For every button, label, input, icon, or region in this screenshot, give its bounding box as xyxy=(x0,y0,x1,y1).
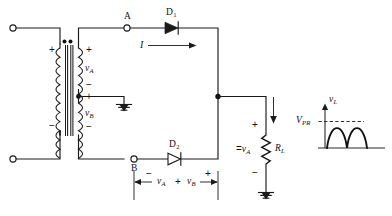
waveform-y-axis-arrowhead xyxy=(322,104,328,111)
node-b-terminal[interactable] xyxy=(131,156,137,162)
transformer-dot-secondary xyxy=(69,40,73,44)
wire-output-to-load xyxy=(218,97,266,136)
diode-d2-label: D2 xyxy=(169,140,179,150)
load-voltage-label: =vA xyxy=(236,144,250,155)
bracket-va-label: vA xyxy=(157,177,165,187)
va-minus-sign: − xyxy=(86,80,92,90)
va-plus-sign: + xyxy=(86,45,92,55)
bracket-plus-mid-sign: + xyxy=(175,177,181,187)
wire-secondary-bottom xyxy=(79,158,125,159)
transformer-dot-primary xyxy=(63,40,67,44)
current-arrow xyxy=(148,42,197,48)
ground-symbol-centertap xyxy=(117,105,132,112)
load-resistor-symbol xyxy=(262,135,270,164)
load-current-arrow xyxy=(270,97,277,124)
node-b-label: B xyxy=(131,164,137,174)
waveform-y-axis-label: vL xyxy=(329,95,337,105)
vb-label: vB xyxy=(85,109,93,119)
diode-d2 xyxy=(168,153,181,165)
primary-minus-sign: − xyxy=(49,121,55,131)
node-a-terminal[interactable] xyxy=(124,25,130,31)
vb-plus-sign: + xyxy=(86,92,92,102)
bracket-plus-right-sign: + xyxy=(205,169,211,179)
bracket-minus-sign: − xyxy=(146,169,152,179)
circuit-diagram: + − + vA − + vB − A B D1 D2 I + =vA RL −… xyxy=(0,0,392,216)
wire-d1-to-output xyxy=(178,28,218,97)
top-branch xyxy=(124,22,218,97)
transformer-primary-coil xyxy=(56,48,60,158)
vb-minus-sign: − xyxy=(86,122,92,132)
circuit-schematic-svg xyxy=(0,0,392,216)
primary-input-top xyxy=(10,25,60,44)
waveform-peak-label: VPR xyxy=(296,116,310,126)
diode-d1-label: D1 xyxy=(166,8,176,18)
bottom-branch xyxy=(131,97,218,166)
load-minus-sign: − xyxy=(252,168,258,178)
transformer-secondary-lower-coil xyxy=(79,103,83,158)
input-terminal-top[interactable] xyxy=(10,25,16,31)
primary-plus-sign: + xyxy=(49,45,55,55)
wire-d2-to-output xyxy=(181,97,218,160)
input-terminal-bottom[interactable] xyxy=(10,156,16,162)
load-plus-sign: + xyxy=(252,120,258,130)
va-label: vA xyxy=(85,64,93,74)
diode-d1 xyxy=(165,22,178,34)
node-a-label: A xyxy=(124,12,131,22)
current-label: I xyxy=(140,40,143,50)
ground-symbol-load xyxy=(259,193,274,200)
bracket-vb-label: vB xyxy=(187,177,195,187)
load-resistor-label: RL xyxy=(275,144,284,154)
wire-primary-top xyxy=(16,28,60,44)
primary-input-bottom xyxy=(10,131,60,162)
waveform-rectified-curve xyxy=(327,128,367,148)
wire-primary-bottom xyxy=(16,131,60,159)
output-waveform-plot xyxy=(318,104,385,149)
transformer-core xyxy=(66,45,73,136)
